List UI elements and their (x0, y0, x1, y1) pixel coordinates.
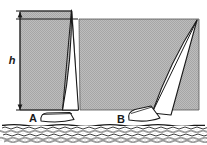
height-label: h (9, 54, 16, 66)
diagram-canvas: h A B (0, 0, 207, 145)
wave-hatch (0, 126, 207, 144)
water-surface (0, 125, 207, 144)
boat-a-label: A (29, 112, 37, 124)
sailboat-heel-diagram: h A B (0, 0, 207, 145)
boat-b-label: B (117, 113, 125, 125)
